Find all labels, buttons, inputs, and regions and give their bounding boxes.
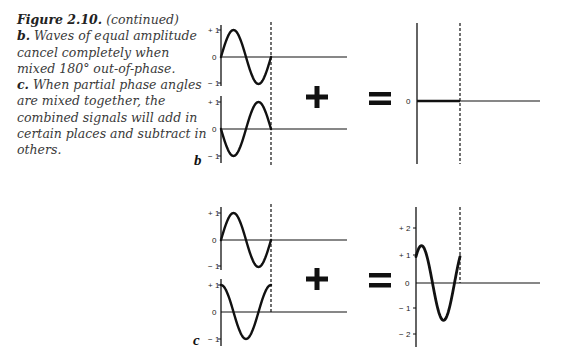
panel-letter-c: c — [193, 332, 200, 348]
tick-label: + 1 — [208, 209, 220, 218]
panel-c: + 1 0 − 1 + 1 0 − 1 c — [193, 204, 540, 348]
panel-letter-b: b — [194, 152, 202, 168]
phase-diagram: + 1 0 − 1 + 1 0 − 1 b — [0, 0, 565, 363]
tick-label: − 1 — [399, 304, 411, 313]
tick-label: − 1 — [208, 262, 220, 271]
equals-icon — [369, 92, 391, 105]
tick-label: 0 — [212, 125, 217, 134]
tick-label: 0 — [212, 53, 217, 62]
plus-icon — [306, 86, 328, 108]
tick-label: − 1 — [208, 152, 220, 161]
tick-label: 0 — [406, 97, 411, 106]
panel-b-wave2: + 1 0 − 1 — [208, 96, 347, 163]
panel-b-result: 0 — [406, 23, 540, 164]
tick-label: + 1 — [208, 26, 220, 35]
tick-label: + 2 — [399, 224, 411, 233]
tick-label: 0 — [405, 279, 410, 288]
panel-c-result: + 2 + 1 0 − 1 − 2 — [399, 207, 540, 347]
panel-b-wave1: + 1 0 − 1 — [208, 25, 347, 88]
tick-label: − 2 — [399, 330, 411, 339]
tick-label: 0 — [212, 308, 217, 317]
panel-b: + 1 0 − 1 + 1 0 − 1 b — [194, 22, 540, 168]
plus-icon — [306, 268, 328, 290]
tick-label: − 1 — [208, 79, 220, 88]
tick-label: + 1 — [399, 251, 411, 260]
tick-label: 0 — [212, 236, 217, 245]
panel-c-wave1: + 1 0 − 1 — [208, 207, 347, 271]
tick-label: + 1 — [208, 98, 220, 107]
equals-icon — [369, 273, 391, 288]
tick-label: − 1 — [208, 335, 220, 344]
panel-c-wave2: + 1 0 − 1 — [208, 279, 347, 346]
tick-label: + 1 — [208, 281, 220, 290]
